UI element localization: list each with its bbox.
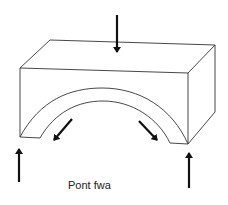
- diagram-caption: Pont fwa: [68, 179, 111, 191]
- bridge-block: [20, 40, 215, 144]
- left-pier-base: [20, 137, 40, 138]
- force-arrows: [19, 15, 189, 188]
- arch-bridge-diagram: [0, 0, 228, 205]
- outer-arch: [20, 88, 188, 144]
- block-right-face: [188, 45, 215, 144]
- right-thrust-arrow: [139, 121, 157, 140]
- inner-arch: [40, 101, 170, 143]
- right-pier-base: [170, 143, 188, 144]
- left-thrust-arrow: [54, 119, 72, 140]
